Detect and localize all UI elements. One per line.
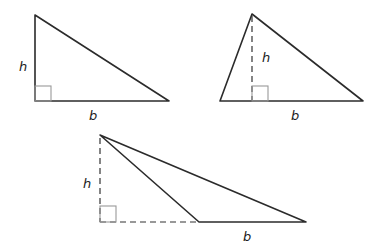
- base-label: b: [291, 108, 299, 123]
- triangle-height-diagram: h b h b h b: [0, 0, 381, 252]
- right-angle-marker: [252, 86, 268, 101]
- right-triangle: h b: [19, 15, 169, 123]
- right-angle-marker: [100, 206, 116, 222]
- height-label: h: [262, 50, 270, 65]
- base-label: b: [243, 229, 251, 244]
- obtuse-triangle-outline: [100, 135, 306, 222]
- base-label: b: [89, 108, 97, 123]
- acute-triangle-outline: [220, 14, 363, 101]
- acute-triangle: h b: [220, 14, 363, 123]
- height-label: h: [19, 59, 27, 74]
- right-triangle-outline: [35, 15, 169, 101]
- obtuse-triangle: h b: [83, 135, 306, 244]
- height-label: h: [83, 176, 91, 191]
- right-angle-marker: [35, 86, 51, 101]
